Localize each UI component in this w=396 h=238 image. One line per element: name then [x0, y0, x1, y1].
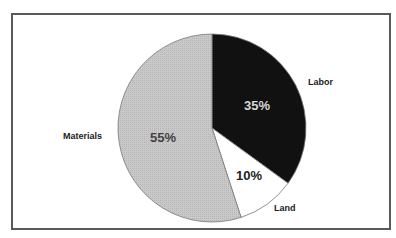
pct-labor: 35%	[244, 98, 270, 113]
label-land: Land	[274, 203, 296, 213]
label-labor: Labor	[308, 77, 333, 87]
pie-chart	[0, 0, 396, 238]
label-materials: Materials	[63, 131, 102, 141]
pct-materials: 55%	[150, 130, 176, 145]
pct-land: 10%	[236, 168, 262, 183]
